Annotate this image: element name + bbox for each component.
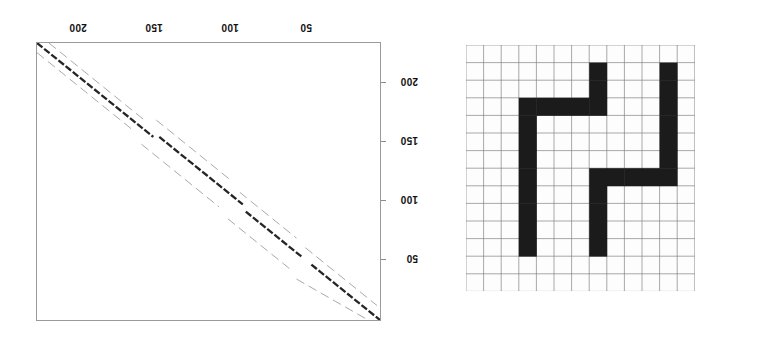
grid-cell-filled bbox=[589, 203, 607, 221]
right-axis-tick-150 bbox=[381, 141, 386, 142]
grid-cell-filled bbox=[519, 151, 537, 169]
grid-cell-filled bbox=[519, 186, 537, 204]
grid-cell-filled bbox=[589, 63, 607, 81]
diagonal-segment bbox=[246, 212, 303, 258]
top-axis-label-150: 150 bbox=[134, 22, 174, 33]
diagonal-segment bbox=[156, 120, 231, 180]
diagonal-segment bbox=[228, 219, 291, 270]
grid-cell-filled bbox=[554, 98, 572, 116]
right-axis-tick-100 bbox=[381, 200, 386, 201]
right-axis-label-150: 150 bbox=[388, 135, 418, 146]
grid-cell-filled bbox=[589, 98, 607, 116]
grid-cell-filled bbox=[589, 221, 607, 239]
grid-pattern-panel bbox=[466, 45, 695, 292]
top-axis-label-50: 50 bbox=[286, 22, 326, 33]
grid-pattern-canvas bbox=[466, 45, 695, 291]
grid-cell-filled bbox=[536, 98, 554, 116]
grid-cell-filled bbox=[660, 151, 678, 169]
grid-cell-filled bbox=[519, 239, 537, 257]
grid-cell-filled bbox=[589, 186, 607, 204]
diagonal-segment bbox=[37, 53, 132, 130]
diagonal-segment bbox=[49, 43, 144, 120]
right-axis-label-200: 200 bbox=[388, 76, 418, 87]
diagonal-segment bbox=[240, 192, 297, 238]
dotplot-panel: 200 150 100 50 200 150 100 50 bbox=[0, 0, 420, 347]
right-axis-tick-50 bbox=[381, 259, 386, 260]
grid-cell-filled bbox=[660, 133, 678, 151]
grid-cell-filled bbox=[589, 168, 607, 186]
diagonal-segment bbox=[305, 248, 377, 306]
right-axis-tick-200 bbox=[381, 82, 386, 83]
grid-cell-filled bbox=[660, 63, 678, 81]
grid-cell-filled bbox=[519, 168, 537, 186]
diagonal-segment bbox=[296, 279, 368, 320]
grid-cell-filled bbox=[519, 98, 537, 116]
right-axis-label-100: 100 bbox=[388, 194, 418, 205]
top-axis-label-200: 200 bbox=[58, 22, 98, 33]
grid-cell-filled bbox=[660, 168, 678, 186]
grid-cell-filled bbox=[589, 239, 607, 257]
grid-cell-filled bbox=[519, 203, 537, 221]
grid-cell-filled bbox=[519, 133, 537, 151]
diagonal-segment bbox=[159, 137, 243, 204]
top-axis-label-100: 100 bbox=[210, 22, 250, 33]
diagonal-segment bbox=[311, 265, 380, 320]
grid-cell-filled bbox=[519, 221, 537, 239]
grid-cell-filled bbox=[519, 115, 537, 133]
grid-cell-filled bbox=[660, 115, 678, 133]
grid-cell-filled bbox=[572, 98, 590, 116]
dotplot-plot-area bbox=[36, 42, 381, 321]
grid-cell-filled bbox=[660, 80, 678, 98]
grid-cell-filled bbox=[607, 168, 625, 186]
grid-cell-filled bbox=[624, 168, 642, 186]
diagonal-segment bbox=[37, 43, 153, 137]
right-axis-label-50: 50 bbox=[388, 253, 418, 264]
grid-cell-filled bbox=[642, 168, 660, 186]
dotplot-canvas bbox=[37, 43, 380, 320]
grid-cell-filled bbox=[589, 80, 607, 98]
grid-cell-filled bbox=[660, 98, 678, 116]
